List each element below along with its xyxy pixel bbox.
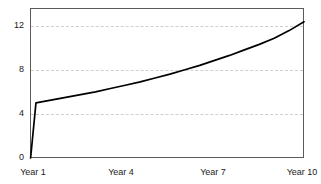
x-tick-label-year-1: Year 1: [8, 167, 58, 177]
series-line-value: [30, 8, 304, 158]
y-tick-label-4: 4: [0, 109, 24, 118]
y-tick-label-8: 8: [0, 65, 24, 74]
x-tick-label-year-4: Year 4: [96, 167, 146, 177]
x-tick-label-year-7: Year 7: [188, 167, 238, 177]
y-tick-label-12: 12: [0, 21, 24, 30]
y-tick-label-0: 0: [0, 153, 24, 162]
line-chart: 12 8 4 0 Year 1 Year 4 Year 7 Year 10: [0, 0, 321, 184]
x-tick-label-year-10: Year 10: [277, 167, 321, 177]
